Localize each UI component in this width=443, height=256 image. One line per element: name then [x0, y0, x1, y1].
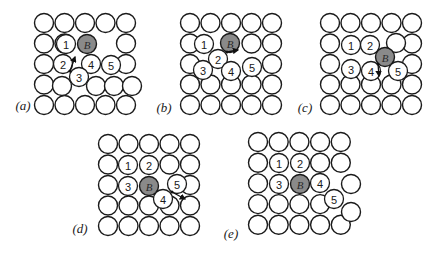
atom-label: 2 — [367, 40, 373, 52]
lattice-atom — [96, 14, 115, 33]
lattice-atom — [342, 203, 361, 222]
lattice-atom — [35, 75, 54, 94]
numbered-atom-4: 4 — [311, 174, 330, 193]
lattice-atom — [290, 133, 309, 152]
lattice-atom — [311, 153, 330, 172]
panel-c: 12B345(c) — [298, 14, 422, 115]
lattice-atom — [35, 55, 54, 74]
lattice-atom — [181, 14, 200, 33]
lattice-atom — [181, 217, 200, 236]
lattice-atom — [362, 96, 381, 115]
lattice-atom — [201, 96, 220, 115]
lattice-atom — [99, 196, 118, 215]
panel-label: (e) — [224, 226, 238, 241]
lattice-atom — [99, 176, 118, 195]
lattice-atom — [242, 75, 261, 94]
lattice-atom — [321, 96, 340, 115]
lattice-atom — [362, 14, 381, 33]
atom-label: 4 — [368, 66, 374, 78]
lattice-atom — [249, 215, 268, 234]
lattice-atom — [242, 14, 261, 33]
lattice-atom — [242, 34, 261, 53]
lattice-atom — [117, 96, 136, 115]
lattice-atom — [290, 195, 309, 214]
atom-label: 4 — [88, 59, 94, 71]
lattice-atom — [403, 96, 422, 115]
atom-label: B — [146, 181, 153, 193]
numbered-atom-1: 1 — [57, 35, 76, 54]
lattice-atom — [263, 96, 282, 115]
lattice-atom — [331, 153, 350, 172]
numbered-atom-3: 3 — [194, 61, 213, 80]
arrow-tail-dot — [170, 190, 173, 193]
lattice-atom — [263, 34, 282, 53]
numbered-atom-4: 4 — [222, 62, 241, 81]
lattice-atom — [99, 155, 118, 174]
atom-label: 4 — [160, 194, 166, 206]
lattice-atom — [123, 77, 142, 96]
panel-a: 1B2453(a) — [15, 14, 141, 115]
lattice-atom — [119, 196, 138, 215]
numbered-atom-3: 3 — [270, 175, 289, 194]
atom-label: 1 — [201, 39, 207, 51]
atom-label: 5 — [395, 66, 401, 78]
atom-label: B — [382, 52, 389, 64]
panel-label: (a) — [15, 98, 30, 113]
numbered-atom-1: 1 — [342, 36, 361, 55]
lattice-atom — [105, 77, 124, 96]
lattice-atom — [290, 215, 309, 234]
numbered-atom-3: 3 — [119, 177, 138, 196]
numbered-atom-1: 1 — [195, 35, 214, 54]
numbered-atom-1: 1 — [119, 156, 138, 175]
lattice-atom — [341, 96, 360, 115]
lattice-atom — [311, 133, 330, 152]
atom-label: 3 — [200, 65, 206, 77]
diffusion-diagram: 1B2453(a)1B2345(b)12B345(c)123B45(d)123B… — [0, 0, 443, 256]
atom-label: 3 — [276, 179, 282, 191]
impurity-atom-b: B — [78, 35, 97, 54]
numbered-atom-1: 1 — [270, 154, 289, 173]
lattice-atom — [140, 217, 159, 236]
lattice-atom — [35, 14, 54, 33]
lattice-atom — [249, 133, 268, 152]
atom-label: 3 — [76, 72, 82, 84]
numbered-atom-5: 5 — [325, 190, 344, 209]
lattice-atom — [76, 96, 95, 115]
lattice-atom — [331, 133, 350, 152]
numbered-atom-3: 3 — [70, 68, 89, 87]
lattice-atom — [181, 135, 200, 154]
atom-label: 3 — [125, 181, 131, 193]
atom-label: 2 — [297, 158, 303, 170]
numbered-atom-5: 5 — [102, 56, 121, 75]
atom-label: 3 — [348, 64, 354, 76]
atom-label: B — [84, 39, 91, 51]
impurity-atom-b: B — [291, 175, 310, 194]
lattice-atom — [249, 174, 268, 193]
lattice-atom — [99, 135, 118, 154]
arrow-tail-dot — [225, 50, 228, 53]
atom-label: 4 — [317, 178, 323, 190]
numbered-atom-2: 2 — [140, 156, 159, 175]
lattice-atom — [140, 135, 159, 154]
lattice-atom — [181, 196, 200, 215]
numbered-atom-5: 5 — [243, 58, 262, 77]
panel-d: 123B45(d) — [72, 135, 199, 236]
lattice-atom — [96, 96, 115, 115]
lattice-atom — [311, 215, 330, 234]
atom-label: 5 — [174, 179, 180, 191]
atom-label: 2 — [215, 54, 221, 66]
lattice-atom — [249, 153, 268, 172]
atom-label: B — [297, 179, 304, 191]
atom-label: B — [227, 38, 234, 50]
lattice-atom — [119, 217, 138, 236]
lattice-atom — [181, 96, 200, 115]
lattice-atom — [321, 55, 340, 74]
lattice-atom — [382, 96, 401, 115]
lattice-atom — [87, 77, 106, 96]
panel-label: (d) — [72, 221, 87, 236]
lattice-atom — [249, 195, 268, 214]
lattice-figure: 1B2453(a)1B2345(b)12B345(c)123B45(d)123B… — [0, 0, 443, 256]
numbered-atom-5: 5 — [389, 62, 408, 81]
lattice-atom — [55, 96, 74, 115]
lattice-atom — [181, 155, 200, 174]
